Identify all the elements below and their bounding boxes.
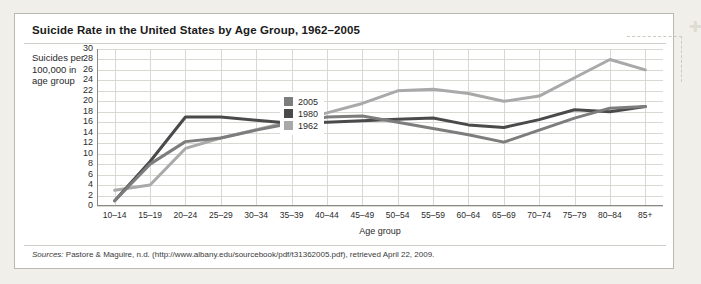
- legend-item: 1962: [284, 120, 318, 131]
- gridline-horizontal: [97, 206, 663, 207]
- dashed-guide-vertical: [681, 36, 682, 82]
- source-divider: [24, 245, 666, 246]
- y-tick-label: 24: [71, 75, 93, 84]
- legend-swatch-icon: [284, 121, 293, 130]
- y-tick-label: 8: [71, 159, 93, 168]
- y-tick-label: 6: [71, 170, 93, 179]
- x-tick-label: 75–79: [563, 210, 587, 220]
- x-tick-label: 25–29: [209, 210, 233, 220]
- x-tick-label: 20–24: [174, 210, 198, 220]
- legend-swatch-icon: [284, 97, 293, 106]
- legend-item: 1980: [284, 108, 318, 119]
- x-axis-ticks: 10–1415–1920–2425–2930–3435–3940–4445–49…: [97, 210, 663, 224]
- x-tick-label: 60–64: [457, 210, 481, 220]
- y-tick-label: 12: [71, 138, 93, 147]
- legend-label: 2005: [298, 97, 318, 107]
- y-tick-label: 4: [71, 180, 93, 189]
- x-tick-label: 50–54: [386, 210, 410, 220]
- x-tick-label: 70–74: [527, 210, 551, 220]
- dashed-guide-horizontal: [627, 36, 682, 37]
- source-text: Pastore & Maguire, n.d. (http://www.alba…: [64, 250, 435, 259]
- y-tick-label: 16: [71, 117, 93, 126]
- y-tick-label: 14: [71, 128, 93, 137]
- x-tick-label: 30–34: [244, 210, 268, 220]
- x-tick-label: 10–14: [103, 210, 127, 220]
- y-tick-label: 10: [71, 149, 93, 158]
- x-tick-label: 55–59: [421, 210, 445, 220]
- crosshair-marker-icon: ✚: [688, 20, 701, 34]
- x-tick-label: 80–84: [598, 210, 622, 220]
- figure-panel: Suicide Rate in the United States by Age…: [14, 13, 674, 269]
- chart-title: Suicide Rate in the United States by Age…: [32, 24, 360, 36]
- y-tick-label: 20: [71, 96, 93, 105]
- y-tick-label: 26: [71, 65, 93, 74]
- legend-item: 2005: [284, 96, 318, 107]
- y-tick-label: 2: [71, 191, 93, 200]
- x-tick-label: 35–39: [280, 210, 304, 220]
- source-label: Sources:: [32, 250, 64, 259]
- source-note: Sources: Pastore & Maguire, n.d. (http:/…: [32, 250, 642, 261]
- y-axis-ticks: 302826242220181614121086420: [97, 49, 663, 206]
- x-tick-label: 45–49: [350, 210, 374, 220]
- x-axis-title: Age group: [97, 226, 663, 236]
- title-divider: [24, 43, 666, 44]
- chart-legend: 200519801962: [280, 92, 324, 135]
- legend-label: 1980: [298, 109, 318, 119]
- y-tick-label: 28: [71, 54, 93, 63]
- x-tick-label: 15–19: [138, 210, 162, 220]
- y-tick-label: 18: [71, 107, 93, 116]
- y-tick-label: 0: [71, 201, 93, 210]
- x-tick-label: 40–44: [315, 210, 339, 220]
- x-tick-label: 85+: [638, 210, 652, 220]
- y-tick-label: 30: [71, 44, 93, 53]
- legend-label: 1962: [298, 121, 318, 131]
- y-tick-label: 22: [71, 86, 93, 95]
- x-tick-label: 65–69: [492, 210, 516, 220]
- legend-swatch-icon: [284, 109, 293, 118]
